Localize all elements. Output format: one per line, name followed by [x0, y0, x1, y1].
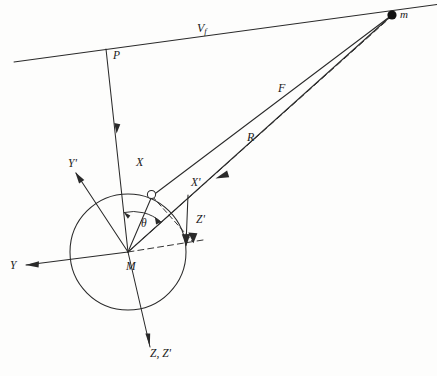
label-mass-point: m — [400, 9, 408, 20]
y-axis — [26, 252, 128, 265]
label-axis-x: X — [136, 156, 143, 168]
label-axis-x-prime: X' — [191, 177, 200, 189]
label-range: R — [247, 131, 254, 143]
force-vector — [152, 15, 392, 196]
label-point-p: P — [113, 50, 120, 62]
trajectory-line — [14, 5, 437, 63]
vector-diagram — [0, 0, 437, 376]
label-center-m: M — [126, 261, 136, 273]
label-velocity-subscript: f — [204, 26, 206, 36]
label-axis-y-prime: Y' — [68, 158, 77, 170]
x-axis — [106, 49, 128, 252]
label-velocity: Vf — [197, 22, 207, 36]
z-prime-arrowhead — [182, 234, 191, 246]
marker-radius-line — [128, 196, 152, 252]
label-axis-z-zprime: Z, Z' — [150, 348, 171, 360]
z-axis-arrowhead — [145, 333, 150, 346]
label-axis-y: Y — [10, 260, 16, 272]
label-force: F — [278, 82, 285, 94]
mass-point-marker — [387, 10, 396, 19]
label-axis-z-prime: Z' — [196, 214, 205, 226]
small-circle-marker — [147, 190, 155, 198]
y-prime-axis-arrowhead — [75, 172, 84, 183]
label-theta: θ — [141, 218, 147, 230]
